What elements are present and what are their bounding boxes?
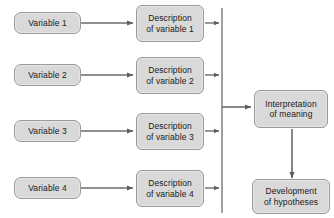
node-description-3[interactable]: Description of variable 3	[136, 113, 204, 150]
node-variable-1-label: Variable 1	[15, 18, 80, 29]
node-variable-4-label: Variable 4	[15, 183, 80, 194]
node-variable-4[interactable]: Variable 4	[14, 177, 81, 199]
node-variable-1[interactable]: Variable 1	[14, 12, 81, 34]
node-description-4-label: Description of variable 4	[137, 178, 203, 199]
node-description-3-label: Description of variable 3	[137, 121, 203, 142]
node-description-4[interactable]: Description of variable 4	[136, 170, 204, 207]
node-variable-2[interactable]: Variable 2	[14, 64, 81, 86]
node-development-of-hypotheses[interactable]: Development of hypotheses	[252, 179, 330, 214]
node-description-1[interactable]: Description of variable 1	[136, 5, 204, 42]
node-variable-2-label: Variable 2	[15, 70, 80, 81]
node-interpretation-of-meaning[interactable]: Interpretation of meaning	[254, 90, 328, 128]
node-description-2-label: Description of variable 2	[137, 65, 203, 86]
node-variable-3-label: Variable 3	[15, 126, 80, 137]
node-hypotheses-label: Development of hypotheses	[253, 186, 329, 207]
node-description-2[interactable]: Description of variable 2	[136, 57, 204, 94]
diagram-canvas: Variable 1 Variable 2 Variable 3 Variabl…	[0, 0, 334, 218]
node-description-1-label: Description of variable 1	[137, 13, 203, 34]
node-interpretation-label: Interpretation of meaning	[255, 99, 327, 120]
node-variable-3[interactable]: Variable 3	[14, 120, 81, 142]
